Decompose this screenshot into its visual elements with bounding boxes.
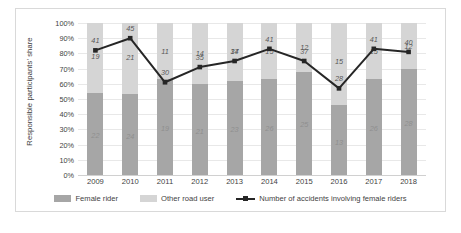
bar-column[interactable]: 1423: [227, 23, 243, 175]
y-axis-tick-label: 0%: [63, 171, 74, 180]
bar-column[interactable]: 1513: [331, 23, 347, 175]
bar-label-female-rider: 23: [231, 125, 239, 134]
bar-column[interactable]: 1119: [157, 23, 173, 175]
line-data-label: 35: [196, 53, 204, 62]
bar-segment-female-rider[interactable]: 24: [122, 94, 138, 175]
y-axis-tick-label: 60%: [59, 79, 74, 88]
bar-label-female-rider: 22: [91, 131, 99, 140]
line-data-label: 37: [231, 47, 239, 56]
bar-segment-other-road-user[interactable]: 15: [261, 23, 277, 79]
y-axis-title: Responsible participants' share: [25, 17, 34, 167]
line-data-label: 41: [91, 36, 99, 45]
bar-label-female-rider: 13: [335, 138, 343, 147]
bar-column[interactable]: 1225: [296, 23, 312, 175]
bar-segment-female-rider[interactable]: 26: [366, 79, 382, 175]
legend-label: Other road user: [161, 194, 214, 203]
x-axis-tick-label: 2009: [87, 177, 104, 186]
y-axis-tick-label: 80%: [59, 49, 74, 58]
bar-label-female-rider: 19: [161, 124, 169, 133]
x-axis-tick-label: 2014: [261, 177, 278, 186]
bar-column[interactable]: 2124: [122, 23, 138, 175]
plot-area: 0%10%20%30%40%50%60%70%80%90%100% 192221…: [78, 23, 426, 175]
bar-label-other-road-user: 21: [126, 53, 134, 62]
bar-label-female-rider: 28: [405, 119, 413, 128]
bar-segment-other-road-user[interactable]: 21: [122, 23, 138, 94]
bar-label-other-road-user: 11: [161, 47, 169, 56]
line-data-label: 28: [335, 74, 343, 83]
legend-item[interactable]: Other road user: [140, 194, 214, 203]
y-axis-tick-label: 70%: [59, 64, 74, 73]
bar-segment-other-road-user[interactable]: 19: [87, 23, 103, 93]
legend-item[interactable]: Number of accidents involving female rid…: [236, 194, 406, 203]
y-axis-tick-label: 40%: [59, 110, 74, 119]
bar-segment-female-rider[interactable]: 26: [261, 79, 277, 175]
y-axis-tick-label: 20%: [59, 140, 74, 149]
bar-column[interactable]: 1421: [192, 23, 208, 175]
bar-segment-female-rider[interactable]: 28: [401, 69, 417, 175]
bar-segment-other-road-user[interactable]: 15: [331, 23, 347, 105]
line-data-label: 30: [161, 68, 169, 77]
legend-label: Female rider: [75, 194, 118, 203]
bar-label-other-road-user: 15: [370, 47, 378, 56]
line-data-label: 40: [405, 38, 413, 47]
y-axis-tick-label: 50%: [59, 95, 74, 104]
bar-series-group: 1922212411191421142315261225151315261228: [78, 23, 426, 175]
bar-label-other-road-user: 19: [91, 52, 99, 61]
legend-swatch-icon: [54, 195, 71, 202]
legend-swatch-icon: [140, 195, 157, 202]
bar-label-other-road-user: 15: [335, 57, 343, 66]
x-axis-ticks: 2009201020112012201320142015201620172018: [78, 177, 426, 193]
x-axis-tick-label: 2017: [365, 177, 382, 186]
y-axis-tick-label: 100%: [55, 19, 74, 28]
legend-label: Number of accidents involving female rid…: [259, 194, 406, 203]
x-axis-tick-label: 2015: [296, 177, 313, 186]
y-axis-tick-label: 90%: [59, 34, 74, 43]
line-data-label: 41: [265, 35, 273, 44]
bar-label-female-rider: 24: [126, 132, 134, 141]
bar-segment-other-road-user[interactable]: 15: [366, 23, 382, 79]
bar-label-female-rider: 25: [300, 120, 308, 129]
bar-column[interactable]: 1922: [87, 23, 103, 175]
line-marker-icon: [236, 195, 255, 202]
bar-segment-female-rider[interactable]: 21: [192, 84, 208, 175]
bar-segment-female-rider[interactable]: 25: [296, 72, 312, 175]
x-axis-tick-label: 2011: [157, 177, 173, 186]
bar-segment-female-rider[interactable]: 22: [87, 93, 103, 175]
chart-container: Responsible participants' share 0%10%20%…: [15, 8, 446, 212]
bar-column[interactable]: 1526: [366, 23, 382, 175]
legend-item[interactable]: Female rider: [54, 194, 118, 203]
line-data-label: 37: [300, 47, 308, 56]
y-axis-tick-label: 10%: [59, 155, 74, 164]
line-data-label: 41: [370, 35, 378, 44]
bar-label-female-rider: 21: [196, 127, 204, 136]
chart-legend: Female riderOther road userNumber of acc…: [16, 194, 445, 203]
x-axis-tick-label: 2010: [122, 177, 139, 186]
x-axis-tick-label: 2016: [331, 177, 348, 186]
bar-label-other-road-user: 15: [265, 47, 273, 56]
bar-segment-female-rider[interactable]: 19: [157, 79, 173, 175]
bar-label-female-rider: 26: [265, 124, 273, 133]
bar-column[interactable]: 1526: [261, 23, 277, 175]
x-axis-tick-label: 2012: [191, 177, 208, 186]
bar-label-female-rider: 26: [370, 124, 378, 133]
x-axis-tick-label: 2013: [226, 177, 243, 186]
line-data-label: 45: [126, 24, 134, 33]
bar-segment-female-rider[interactable]: 23: [227, 81, 243, 175]
x-axis-tick-label: 2018: [400, 177, 417, 186]
bar-segment-female-rider[interactable]: 13: [331, 105, 347, 175]
gridline: [78, 175, 426, 176]
y-axis-tick-label: 30%: [59, 125, 74, 134]
